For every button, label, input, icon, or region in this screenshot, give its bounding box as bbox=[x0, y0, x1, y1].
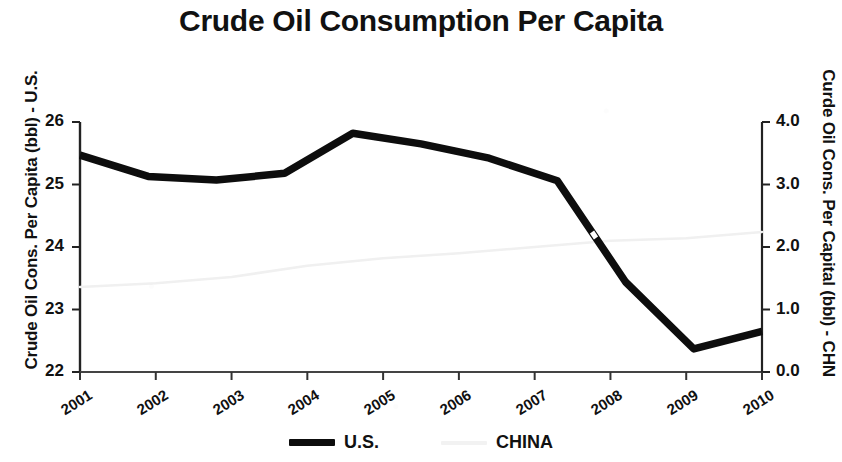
plot-area bbox=[0, 0, 842, 462]
y-axis-right-tick-label: 4.0 bbox=[776, 111, 816, 131]
legend-label-china: CHINA bbox=[496, 432, 553, 453]
legend-swatch-china-icon bbox=[441, 441, 487, 445]
y-axis-left-tick-label: 25 bbox=[26, 174, 64, 194]
series-line-us bbox=[80, 133, 762, 349]
y-axis-right-tick-label: 2.0 bbox=[776, 236, 816, 256]
y-axis-left-tick-label: 24 bbox=[26, 236, 64, 256]
y-axis-left-tick-label: 23 bbox=[26, 299, 64, 319]
y-axis-left-tick-label: 22 bbox=[26, 361, 64, 381]
y-axis-left-tick-label: 26 bbox=[26, 111, 64, 131]
series-line-china bbox=[80, 232, 762, 287]
legend-item-china[interactable]: CHINA bbox=[441, 432, 553, 453]
legend-swatch-us-icon bbox=[289, 439, 335, 446]
legend-item-us[interactable]: U.S. bbox=[289, 432, 379, 453]
y-axis-right-ticks bbox=[762, 122, 770, 372]
y-axis-right-tick-label: 0.0 bbox=[776, 361, 816, 381]
x-axis-ticks bbox=[80, 372, 762, 380]
chart-legend: U.S. CHINA bbox=[0, 432, 842, 453]
chart-container: Crude Oil Consumption Per Capita Crude O… bbox=[0, 0, 842, 462]
line-print-gap bbox=[592, 232, 596, 238]
y-axis-right-tick-label: 1.0 bbox=[776, 299, 816, 319]
y-axis-right-tick-label: 3.0 bbox=[776, 174, 816, 194]
legend-label-us: U.S. bbox=[344, 432, 379, 453]
